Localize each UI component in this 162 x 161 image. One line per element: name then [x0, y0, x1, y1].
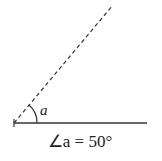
- angle-arc: [29, 105, 37, 123]
- angle-caption: ∠a = 50°: [48, 132, 112, 151]
- angle-label: a: [40, 102, 48, 118]
- angle-diagram: a ∠a = 50°: [0, 0, 162, 161]
